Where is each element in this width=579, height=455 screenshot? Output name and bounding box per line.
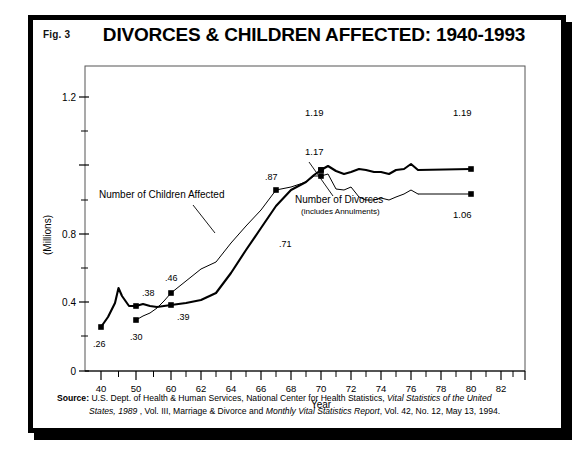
source-line2: States, 1989 , Vol. III, Marriage & Divo… xyxy=(57,405,543,418)
y-axis-title: (Millions) xyxy=(42,215,53,255)
annotation-divorces-label: Number of Divorces xyxy=(295,194,383,205)
source-note: Source: U.S. Dept. of Health & Human Ser… xyxy=(57,392,543,418)
point-label-children-1960: .46 xyxy=(165,273,178,283)
source-line2-text-b: , Vol. III, Marriage & Divorce and xyxy=(137,406,265,416)
y-tick-label-1-2: 1.2 xyxy=(62,92,76,103)
y-tick-label-0-8: 0.8 xyxy=(62,229,76,240)
x-axis-minor-ticks xyxy=(119,371,514,377)
point-label-divorces-1940: .26 xyxy=(93,339,106,349)
plot-area: 0 0.4 0.8 1.2 (Millions) xyxy=(33,20,561,428)
point-label-divorces-1970: .71 xyxy=(279,239,292,249)
figure-root: Fig. 3 DIVORCES & CHILDREN AFFECTED: 194… xyxy=(0,0,579,455)
series-divorces-tail xyxy=(418,169,471,170)
point-label-divorces-1950: .38 xyxy=(142,288,155,298)
figure-frame: Fig. 3 DIVORCES & CHILDREN AFFECTED: 194… xyxy=(28,15,566,433)
point-label-divorces-1960: .39 xyxy=(177,312,190,322)
annotation-children-label: Number of Children Affected xyxy=(99,189,224,200)
source-line2-italic-a: States, 1989 xyxy=(89,406,137,416)
point-label-divorces-1980: 1.19 xyxy=(305,107,324,118)
annotation-divorces-sublabel: (includes Annulments) xyxy=(301,207,380,216)
source-label: Source: xyxy=(57,393,89,403)
point-label-children-1980: 1.17 xyxy=(305,146,324,157)
source-line1-italic: Vital Statistics of the United xyxy=(387,393,491,403)
y-tick-label-0-4: 0.4 xyxy=(62,297,76,308)
x-axis-ticks xyxy=(101,371,525,380)
point-label-children-1950: .30 xyxy=(130,332,143,342)
source-line2-text-c: , Vol. 42, No. 12, May 13, 1994. xyxy=(380,406,500,416)
point-label-children-1993: 1.06 xyxy=(453,209,472,220)
point-label-divorces-1993: 1.19 xyxy=(453,107,472,118)
source-line1-text: U.S. Dept. of Health & Human Services, N… xyxy=(91,393,387,403)
source-line2-italic-b: Monthly Vital Statistics Report xyxy=(266,406,380,416)
y-tick-label-0: 0 xyxy=(70,366,76,377)
point-label-children-1970: .87 xyxy=(265,172,278,182)
chart-svg: 0 0.4 0.8 1.2 (Millions) xyxy=(33,20,561,428)
